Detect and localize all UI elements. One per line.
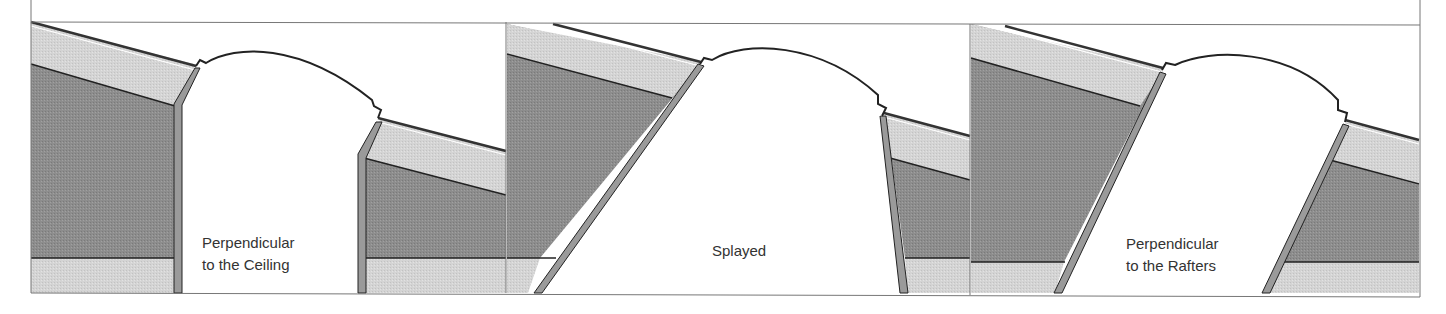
label-rafters-line1: Perpendicular: [1126, 235, 1219, 252]
label-ceiling-line1: Perpendicular: [202, 234, 295, 251]
label-splayed: Splayed: [712, 242, 766, 259]
panel-perpendicular-to-rafters: [971, 24, 1419, 293]
label-rafters-line2: to the Rafters: [1126, 257, 1216, 274]
panel-perpendicular-to-ceiling: [31, 22, 506, 293]
label-ceiling-line2: to the Ceiling: [202, 256, 290, 273]
skylight-shaft-diagram: Perpendicular to the Ceiling Splayed Per…: [0, 0, 1446, 314]
